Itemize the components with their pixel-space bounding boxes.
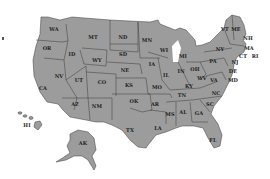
state-label-ma[interactable]: MA <box>244 46 254 51</box>
state-label-vt[interactable]: VT <box>221 27 229 32</box>
state-label-ia[interactable]: IA <box>149 62 155 67</box>
state-label-wy[interactable]: WY <box>92 58 101 63</box>
state-label-or[interactable]: OR <box>43 46 52 51</box>
state-label-nh[interactable]: NH <box>243 36 253 41</box>
state-label-mn[interactable]: MN <box>142 38 152 43</box>
state-label-ms[interactable]: MS <box>165 112 174 117</box>
state-label-sc[interactable]: SC <box>206 102 214 107</box>
state-label-mt[interactable]: MT <box>88 35 97 40</box>
state-label-nv[interactable]: NV <box>55 74 64 79</box>
state-label-tx[interactable]: TX <box>126 128 134 133</box>
state-label-az[interactable]: AZ <box>71 102 79 107</box>
state-label-tn[interactable]: TN <box>178 93 187 98</box>
state-label-hi[interactable]: HI <box>23 123 30 128</box>
alaska-shape <box>56 130 96 170</box>
state-label-ny[interactable]: NY <box>216 47 224 52</box>
state-label-il[interactable]: IL <box>163 73 169 78</box>
map-edge-marker <box>2 37 4 40</box>
state-label-me[interactable]: ME <box>231 27 241 32</box>
state-label-oh[interactable]: OH <box>190 67 199 72</box>
state-label-co[interactable]: CO <box>98 80 107 85</box>
state-label-ri[interactable]: RI <box>252 54 259 59</box>
state-label-mo[interactable]: MO <box>152 85 162 90</box>
state-label-ar[interactable]: AR <box>151 102 159 107</box>
state-label-id[interactable]: ID <box>69 52 76 57</box>
state-label-md[interactable]: MD <box>228 78 238 83</box>
state-label-mi[interactable]: MI <box>179 54 187 59</box>
state-label-wi[interactable]: WI <box>160 48 168 53</box>
state-label-fl[interactable]: FL <box>209 138 216 143</box>
state-label-nm[interactable]: NM <box>92 104 102 109</box>
state-label-la[interactable]: LA <box>154 126 162 131</box>
state-label-nd[interactable]: ND <box>118 35 127 40</box>
state-label-nj[interactable]: NJ <box>231 60 238 65</box>
state-label-wv[interactable]: WV <box>197 76 207 81</box>
state-label-ks[interactable]: KS <box>125 83 133 88</box>
state-label-in[interactable]: IN <box>177 69 184 74</box>
state-label-wa[interactable]: WA <box>49 27 58 32</box>
state-label-ga[interactable]: GA <box>195 111 203 116</box>
state-label-sd[interactable]: SD <box>119 52 127 57</box>
state-label-nc[interactable]: NC <box>212 91 221 96</box>
state-label-de[interactable]: DE <box>229 69 237 74</box>
state-label-ok[interactable]: OK <box>130 99 139 104</box>
state-label-ct[interactable]: CT <box>239 54 247 59</box>
state-label-ca[interactable]: CA <box>39 86 47 91</box>
state-label-va[interactable]: VA <box>210 78 218 83</box>
state-label-pa[interactable]: PA <box>209 59 216 64</box>
state-label-ky[interactable]: KY <box>185 84 193 89</box>
state-label-al[interactable]: AL <box>179 110 187 115</box>
state-label-ak[interactable]: AK <box>79 141 87 146</box>
state-label-ut[interactable]: UT <box>75 78 83 83</box>
state-label-ne[interactable]: NE <box>121 68 130 73</box>
